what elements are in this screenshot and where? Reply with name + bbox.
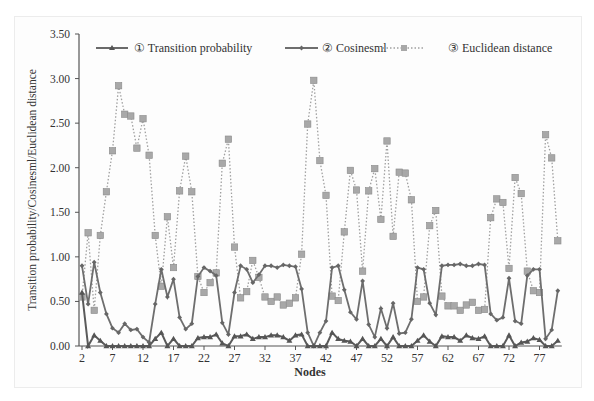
x-tick-label: 77: [534, 351, 546, 365]
line-chart: 0.000.501.001.502.002.503.003.50 2712172…: [0, 0, 594, 401]
y-axis: 0.000.501.001.502.002.503.003.50: [50, 28, 79, 352]
legend-item: ① Transition probability: [96, 41, 252, 55]
x-tick-label: 32: [259, 351, 271, 365]
x-tick-label: 52: [381, 351, 393, 365]
x-tick-label: 27: [229, 351, 241, 365]
x-tick-label: 2: [79, 351, 85, 365]
y-tick-label: 0.00: [50, 340, 70, 352]
x-axis: 271217222732374247525762677277: [79, 346, 562, 365]
y-tick-label: 2.00: [50, 162, 70, 174]
legend-label: ① Transition probability: [134, 41, 252, 55]
x-tick-label: 42: [320, 351, 332, 365]
legend: ① Transition probability② Cosinesml③ Euc…: [96, 41, 552, 55]
x-axis-label: Nodes: [294, 365, 326, 379]
square-marker-icon: [401, 45, 407, 51]
x-tick-label: 22: [198, 351, 210, 365]
x-tick-label: 57: [412, 351, 424, 365]
y-tick-label: 2.50: [50, 117, 70, 129]
series-cosinesml: [80, 260, 561, 349]
y-tick-label: 1.00: [50, 251, 70, 263]
y-tick-label: 3.00: [50, 73, 70, 85]
series-euclidean-distance: [79, 77, 561, 313]
x-tick-label: 12: [137, 351, 149, 365]
y-tick-label: 1.50: [50, 206, 70, 218]
diamond-marker-icon: [299, 46, 304, 51]
plot-area: [79, 77, 561, 348]
y-axis-label: Transition probability/Cosinesml/Euclide…: [26, 69, 39, 311]
legend-label: ② Cosinesml: [322, 41, 387, 55]
y-tick-label: 3.50: [50, 28, 70, 40]
legend-item: ③ Euclidean distance: [383, 41, 552, 55]
x-tick-label: 17: [168, 351, 180, 365]
x-tick-label: 67: [473, 351, 485, 365]
x-tick-label: 37: [290, 351, 302, 365]
y-tick-label: 0.50: [50, 295, 70, 307]
legend-item: ② Cosinesml: [285, 41, 387, 55]
x-tick-label: 47: [351, 351, 363, 365]
x-tick-label: 62: [442, 351, 454, 365]
legend-label: ③ Euclidean distance: [448, 41, 552, 55]
x-tick-label: 72: [503, 351, 515, 365]
x-tick-label: 7: [110, 351, 116, 365]
